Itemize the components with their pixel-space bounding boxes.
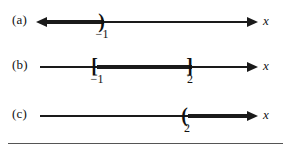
tick-label-b-1: 2 [175,72,205,87]
shaded-ray-c [188,114,248,118]
arrow-right-icon-a [247,17,258,27]
number-line-a: (a) ) −1 x [0,2,289,42]
arrow-left-icon-a [36,17,47,27]
tick-label-c-0: 2 [172,121,202,136]
arrow-right-icon-b [247,62,258,72]
row-label-c: (c) [12,106,27,122]
bottom-divider [8,143,283,145]
shaded-segment-b [97,65,192,69]
number-line-c: (c) ( 2 x [0,96,289,136]
axis-name-c: x [263,107,269,123]
tick-label-a-0: −1 [87,27,117,42]
tick-label-b-0: −1 [82,72,112,87]
shaded-ray-a [46,20,104,24]
row-label-b: (b) [12,57,28,73]
number-line-b: (b) [ −1 ] 2 x [0,47,289,87]
arrow-right-icon-c [247,111,258,121]
row-label-a: (a) [12,12,27,28]
axis-name-b: x [263,58,269,74]
number-line-figure: (a) ) −1 x (b) [ −1 ] 2 x (c) ( 2 x [0,0,289,149]
axis-name-a: x [263,13,269,29]
